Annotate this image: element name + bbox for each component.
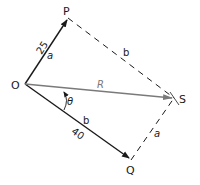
vector-diagram: O P S Q 25 a b 40 b a R θ <box>0 0 200 185</box>
label-Q: Q <box>126 164 135 177</box>
label-OQ-magnitude: 40 <box>70 125 87 141</box>
label-OP-side: a <box>47 50 53 61</box>
label-O: O <box>11 79 20 92</box>
edge-PS <box>68 18 174 98</box>
label-P: P <box>63 5 70 18</box>
label-S: S <box>179 93 186 106</box>
edge-QS <box>131 98 174 160</box>
label-theta: θ <box>67 96 73 107</box>
label-OQ-side: b <box>83 115 89 126</box>
label-QS-side: a <box>154 128 160 139</box>
label-PS-side: b <box>123 47 129 58</box>
label-R: R <box>97 79 104 90</box>
vector-OQ <box>25 84 129 158</box>
vector-OP <box>25 20 67 84</box>
